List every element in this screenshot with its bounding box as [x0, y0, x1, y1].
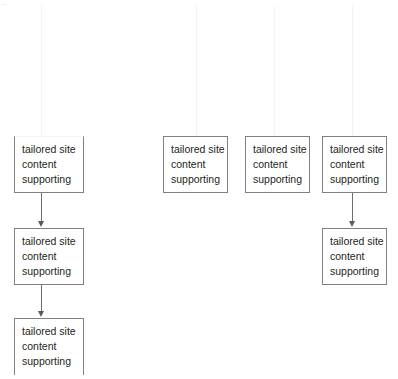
- node-text-line-3: supporting: [22, 354, 76, 369]
- node-4-1[interactable]: tailored site content supporting: [322, 136, 387, 193]
- connector-1-1: [41, 193, 42, 222]
- node-1-1[interactable]: tailored site content supporting: [14, 136, 84, 193]
- node-text-line-1: tailored site: [253, 142, 302, 157]
- node-text-line-1: tailored site: [22, 234, 76, 249]
- guide-line-column-1: [41, 6, 42, 136]
- node-text-line-3: supporting: [22, 264, 76, 279]
- connector-4-1: [352, 193, 353, 222]
- arrowhead-4-1: [349, 221, 355, 227]
- node-text-line-2: content: [171, 157, 220, 172]
- node-1-3[interactable]: tailored site content supporting: [14, 318, 84, 375]
- node-text-line-3: supporting: [22, 172, 76, 187]
- node-text-line-2: content: [330, 157, 379, 172]
- arrowhead-1-1: [38, 221, 44, 227]
- connector-1-2: [41, 285, 42, 312]
- node-text-line-1: tailored site: [171, 142, 220, 157]
- node-text-line-2: content: [22, 249, 76, 264]
- node-text-line-2: content: [22, 339, 76, 354]
- node-text-line-1: tailored site: [330, 142, 379, 157]
- node-2-1[interactable]: tailored site content supporting: [163, 136, 228, 193]
- node-text-line-2: content: [330, 249, 379, 264]
- node-text-line-3: supporting: [171, 172, 220, 187]
- node-text-line-1: tailored site: [22, 142, 76, 157]
- node-text-line-2: content: [253, 157, 302, 172]
- node-3-1[interactable]: tailored site content supporting: [245, 136, 310, 193]
- node-text-line-1: tailored site: [330, 234, 379, 249]
- corner-artifact-mark: ..: [2, 0, 18, 6]
- node-text-line-3: supporting: [253, 172, 302, 187]
- guide-line-column-4: [352, 6, 353, 136]
- node-text-line-2: content: [22, 157, 76, 172]
- node-text-line-1: tailored site: [22, 324, 76, 339]
- guide-line-column-3: [274, 6, 275, 136]
- node-1-2[interactable]: tailored site content supporting: [14, 228, 84, 285]
- guide-line-column-2: [196, 6, 197, 136]
- arrowhead-1-2: [38, 311, 44, 317]
- node-text-line-3: supporting: [330, 264, 379, 279]
- node-4-2[interactable]: tailored site content supporting: [322, 228, 387, 285]
- diagram-canvas: .. tailored site content supporting tail…: [0, 0, 398, 379]
- node-text-line-3: supporting: [330, 172, 379, 187]
